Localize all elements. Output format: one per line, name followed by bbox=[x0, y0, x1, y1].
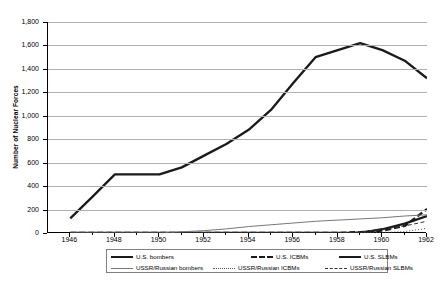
y-tick-mark bbox=[43, 186, 47, 187]
x-tick-mark-minor bbox=[181, 233, 182, 235]
x-tick-mark-minor bbox=[359, 233, 360, 235]
y-tick-mark bbox=[43, 22, 47, 23]
legend-row-top: U.S. bombersU.S. ICBMsU.S. SLBMs bbox=[107, 250, 389, 261]
legend-entry[interactable]: USSR/Russian SLBMs bbox=[325, 262, 413, 273]
x-tick-mark-minor bbox=[315, 233, 316, 235]
y-tick-mark bbox=[43, 163, 47, 164]
legend-key-line bbox=[339, 256, 361, 258]
legend-entry[interactable]: USSR/Russian bombers bbox=[111, 262, 203, 273]
y-tick-mark bbox=[43, 45, 47, 46]
y-tick-mark bbox=[43, 92, 47, 93]
x-tick-mark-major bbox=[426, 233, 427, 237]
legend-key-icon bbox=[339, 253, 361, 261]
x-tick-mark-minor bbox=[404, 233, 405, 235]
legend-key-icon bbox=[111, 264, 133, 272]
legend-key-icon bbox=[325, 264, 347, 272]
x-tick-mark-major bbox=[248, 233, 249, 237]
legend-label: USSR/Russian bombers bbox=[136, 264, 203, 272]
y-tick-mark bbox=[43, 233, 47, 234]
legend-key-line bbox=[325, 268, 347, 269]
x-tick-mark-major bbox=[203, 233, 204, 237]
legend-key-line bbox=[111, 268, 133, 269]
y-tick-mark bbox=[43, 139, 47, 140]
legend-key-icon bbox=[111, 253, 133, 261]
axis-tick-marks bbox=[0, 0, 447, 284]
y-tick-mark bbox=[43, 210, 47, 211]
legend-label: U.S. ICBMs bbox=[276, 253, 308, 261]
x-tick-mark-major bbox=[292, 233, 293, 237]
legend-label: USSR/Russian SLBMs bbox=[350, 264, 413, 272]
nuclear-forces-line-chart: Number of Nuclear Forces 02004006008001,… bbox=[0, 0, 447, 284]
x-tick-mark-major bbox=[381, 233, 382, 237]
x-tick-mark-major bbox=[337, 233, 338, 237]
y-tick-mark bbox=[43, 116, 47, 117]
x-tick-mark-minor bbox=[270, 233, 271, 235]
x-tick-mark-major bbox=[158, 233, 159, 237]
y-tick-mark bbox=[43, 69, 47, 70]
x-tick-mark-major bbox=[69, 233, 70, 237]
legend-key-line bbox=[111, 256, 133, 258]
x-tick-mark-major bbox=[114, 233, 115, 237]
legend-label: U.S. bombers bbox=[136, 253, 174, 261]
legend-entry[interactable]: USSR/Russian ICBMs bbox=[213, 262, 300, 273]
legend-row-bottom: USSR/Russian bombersUSSR/Russian ICBMsUS… bbox=[107, 261, 389, 272]
legend-label: U.S. SLBMs bbox=[364, 253, 398, 261]
x-tick-mark-minor bbox=[136, 233, 137, 235]
x-tick-mark-minor bbox=[225, 233, 226, 235]
legend-key-icon bbox=[213, 264, 235, 272]
legend-label: USSR/Russian ICBMs bbox=[238, 264, 300, 272]
chart-legend: U.S. bombersU.S. ICBMsU.S. SLBMs USSR/Ru… bbox=[106, 249, 388, 273]
legend-key-icon bbox=[251, 253, 273, 261]
legend-key-line bbox=[213, 268, 235, 269]
legend-key-line bbox=[251, 256, 273, 258]
x-tick-mark-minor bbox=[92, 233, 93, 235]
